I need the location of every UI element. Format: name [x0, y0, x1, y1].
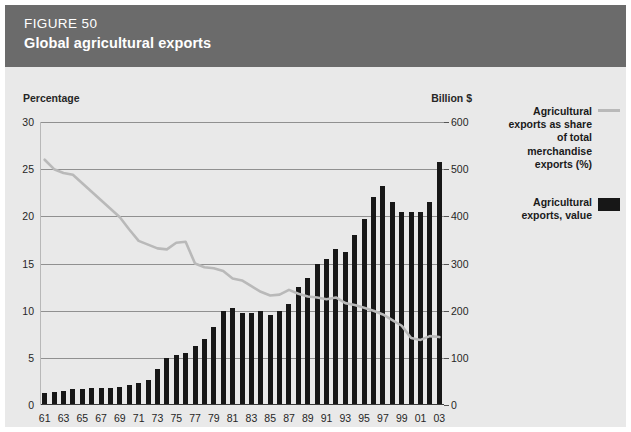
y-axis-line [40, 122, 41, 405]
legend-label-line: Agricultural exports as share of total m… [507, 105, 592, 171]
y-tick-label-left: 0 [28, 399, 34, 411]
legend-item-line: Agricultural exports as share of total m… [502, 105, 620, 171]
y-tick-label-right: 300 [451, 258, 469, 270]
line-series-path [45, 160, 440, 340]
figure-container: FIGURE 50 Global agricultural exports Pe… [0, 0, 631, 432]
legend-item-bar: Agricultural exports, value [502, 196, 620, 222]
y-tick-mark-right [444, 122, 449, 123]
y-tick-label-left: 30 [22, 116, 34, 128]
legend-bar-swatch-icon [598, 198, 620, 211]
y-tick-label-left: 15 [22, 258, 34, 270]
x-tick-label: 71 [133, 412, 145, 424]
figure-title: Global agricultural exports [24, 33, 626, 53]
x-tick-label: 91 [321, 412, 333, 424]
x-tick-label: 73 [152, 412, 164, 424]
x-tick-label: 61 [39, 412, 51, 424]
x-tick-label: 85 [264, 412, 276, 424]
x-tick-label: 63 [58, 412, 70, 424]
x-tick-label: 83 [246, 412, 258, 424]
legend-line-swatch-icon [598, 109, 620, 112]
x-tick-label: 81 [227, 412, 239, 424]
legend: Agricultural exports as share of total m… [502, 105, 620, 222]
x-tick-label: 89 [302, 412, 314, 424]
y-tick-label-right: 0 [451, 399, 457, 411]
x-tick-label: 79 [208, 412, 220, 424]
y-tick-label-left: 10 [22, 305, 34, 317]
y-tick-mark-right [444, 405, 449, 406]
line-series [40, 122, 444, 405]
x-tick-label: 97 [377, 412, 389, 424]
y-tick-label-right: 100 [451, 352, 469, 364]
y-tick-label-left: 20 [22, 210, 34, 222]
y-tick-label-right: 600 [451, 116, 469, 128]
plot-area: Percentage Billion $ 051015202530 010020… [40, 122, 444, 405]
x-tick-label: 67 [95, 412, 107, 424]
y-tick-label-left: 5 [28, 352, 34, 364]
y-tick-label-right: 400 [451, 210, 469, 222]
x-tick-label: 87 [283, 412, 295, 424]
y-axis-title-right: Billion $ [431, 92, 472, 104]
x-tick-label: 93 [340, 412, 352, 424]
y-tick-mark-right [444, 216, 449, 217]
figure-number: FIGURE 50 [24, 14, 626, 33]
y-tick-mark-right [444, 358, 449, 359]
x-tick-label: 99 [396, 412, 408, 424]
y-tick-label-left: 25 [22, 163, 34, 175]
legend-label-bar: Agricultural exports, value [507, 196, 592, 222]
y-tick-mark-right [444, 264, 449, 265]
x-axis-labels: 6163656769717375777981838587899193959799… [40, 405, 444, 427]
x-tick-label: 65 [76, 412, 88, 424]
y-tick-label-right: 500 [451, 163, 469, 175]
y-tick-label-right: 200 [451, 305, 469, 317]
x-tick-label: 95 [358, 412, 370, 424]
x-tick-label: 03 [433, 412, 445, 424]
figure-header: FIGURE 50 Global agricultural exports [5, 5, 626, 67]
x-tick-label: 69 [114, 412, 126, 424]
x-tick-label: 75 [170, 412, 182, 424]
y-axis-title-left: Percentage [23, 92, 80, 104]
y-tick-mark-right [444, 311, 449, 312]
x-tick-label: 77 [189, 412, 201, 424]
x-tick-label: 01 [415, 412, 427, 424]
y-tick-mark-right [444, 169, 449, 170]
